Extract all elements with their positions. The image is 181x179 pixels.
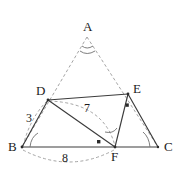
- segment-DE: [48, 94, 128, 100]
- vertex-point-B: [21, 146, 24, 149]
- segment-length-BD: 3: [26, 112, 32, 124]
- vertex-label-C: C: [164, 140, 173, 153]
- segment-length-BF: 8: [62, 152, 68, 164]
- vertex-label-F: F: [111, 150, 118, 163]
- vertex-label-B: B: [8, 140, 17, 153]
- segment-length-DF: 7: [84, 102, 90, 114]
- vertex-point-C: [157, 146, 159, 148]
- angle-marker-A-inner: [82, 46, 93, 48]
- arc-BF-8: [23, 150, 114, 162]
- vertex-label-D: D: [36, 84, 45, 97]
- segment-AC-dashed: [87, 37, 158, 147]
- dot-marker-F-interior: [97, 140, 100, 143]
- angle-marker-F: [105, 128, 117, 133]
- geometry-figure: A B C D E F 3 7 8: [0, 0, 181, 179]
- solid-segments: [22, 94, 158, 147]
- segment-EF: [115, 94, 128, 147]
- angle-marker-C: [143, 132, 150, 147]
- vertex-point-D: [47, 99, 50, 102]
- vertex-label-E: E: [133, 82, 141, 95]
- dot-marker-E-interior: [125, 103, 128, 106]
- angle-marker-B: [30, 133, 38, 147]
- vertex-point-E: [127, 93, 130, 96]
- segment-EC: [128, 94, 158, 147]
- dashed-measure-arcs: [23, 101, 115, 162]
- vertex-point-F: [114, 146, 117, 149]
- vertex-label-A: A: [83, 20, 92, 33]
- angle-marker-A: [80, 51, 95, 54]
